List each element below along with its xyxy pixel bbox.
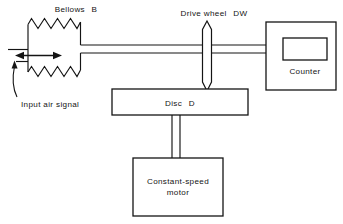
- input-air-signal-leader: [12, 61, 18, 98]
- displacement-arrow-head-right: [53, 52, 62, 59]
- drive-wheel-component: [203, 21, 212, 91]
- motor-box: [133, 158, 223, 216]
- displacement-arrow: [15, 52, 62, 59]
- motor-label-line1: Constant-speed: [147, 177, 209, 186]
- displacement-arrow-head-left: [15, 52, 24, 59]
- disc-label-text: Disc: [165, 99, 182, 108]
- bellows-top-spring: [28, 19, 81, 29]
- input-air-signal-leader-curve: [13, 66, 17, 97]
- motor-label-line2: motor: [167, 188, 189, 197]
- drive-wheel-label-text: Drive wheel: [181, 9, 227, 18]
- disc-label-symbol: D: [189, 99, 195, 108]
- input-air-signal-label: Input air signal: [21, 100, 79, 109]
- bellows-bottom-spring: [28, 67, 81, 77]
- disc-label: Disc D: [165, 99, 195, 108]
- counter-display-window: [283, 38, 327, 60]
- drive-wheel-body: [203, 21, 212, 91]
- schematic-diagram: Pneumatic integrator / air-signal counte…: [0, 0, 343, 224]
- bellows-label-symbol: B: [92, 5, 98, 14]
- motor-component: Constant-speed motor: [133, 158, 223, 216]
- disc-motor-shaft: [172, 115, 180, 158]
- bellows-component: [8, 19, 81, 77]
- main-horizontal-shaft: [81, 45, 267, 53]
- diagram-canvas: Pneumatic integrator / air-signal counte…: [0, 0, 343, 224]
- bellows-label: Bellows B: [55, 5, 98, 14]
- drive-wheel-label: Drive wheel DW: [181, 9, 248, 18]
- bellows-label-text: Bellows: [55, 5, 85, 14]
- counter-component: Counter: [266, 22, 336, 90]
- disc-component: Disc D: [112, 89, 248, 115]
- counter-label: Counter: [289, 67, 320, 76]
- drive-wheel-label-symbol: DW: [233, 9, 247, 18]
